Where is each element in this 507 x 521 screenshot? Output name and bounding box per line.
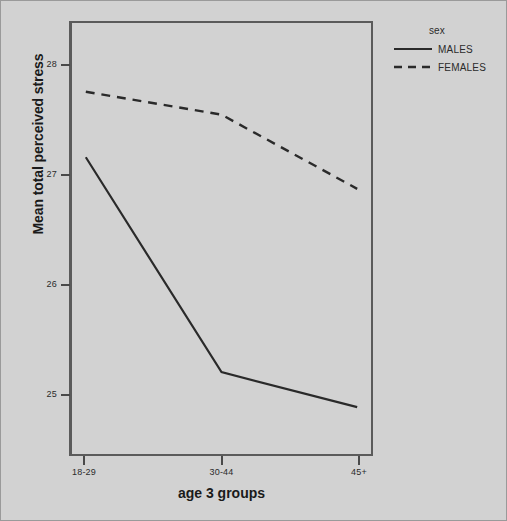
- legend-label-females: FEMALES: [438, 62, 486, 73]
- legend-label-males: MALES: [438, 44, 473, 55]
- y-tick-26: [61, 284, 70, 286]
- x-tick-1: [221, 456, 223, 465]
- x-tick-label-1: 30-44: [182, 467, 262, 477]
- x-tick-label-2: 45+: [319, 467, 399, 477]
- x-tick-0: [83, 456, 85, 465]
- plot-area: [70, 21, 373, 456]
- legend-item-males: MALES: [393, 43, 501, 55]
- y-tick-27: [61, 174, 70, 176]
- y-tick-label-26: 26: [1, 279, 57, 289]
- series-line-males: [86, 157, 357, 407]
- y-axis-title: Mean total perceived stress: [30, 19, 46, 269]
- y-tick-label-28: 28: [1, 59, 57, 69]
- figure-canvas: 25262728 Mean total perceived stress 18-…: [1, 1, 506, 520]
- y-axis-line: [69, 21, 71, 456]
- legend-entries: MALESFEMALES: [393, 43, 501, 73]
- x-tick-2: [358, 456, 360, 465]
- legend-swatch-dashed-line-icon: [393, 62, 433, 72]
- legend-title: sex: [401, 25, 473, 36]
- plot-lines: [72, 23, 371, 454]
- legend-swatch-solid-line-icon: [393, 44, 433, 54]
- x-axis-title: age 3 groups: [70, 485, 373, 501]
- legend: sex MALESFEMALES: [393, 25, 501, 79]
- legend-item-females: FEMALES: [393, 61, 501, 73]
- x-tick-label-0: 18-29: [44, 467, 124, 477]
- y-tick-label-27: 27: [1, 169, 57, 179]
- y-tick-label-25: 25: [1, 389, 57, 399]
- y-tick-28: [61, 64, 70, 66]
- y-tick-25: [61, 394, 70, 396]
- chart-page: 25262728 Mean total perceived stress 18-…: [0, 0, 507, 521]
- series-line-females: [86, 92, 357, 189]
